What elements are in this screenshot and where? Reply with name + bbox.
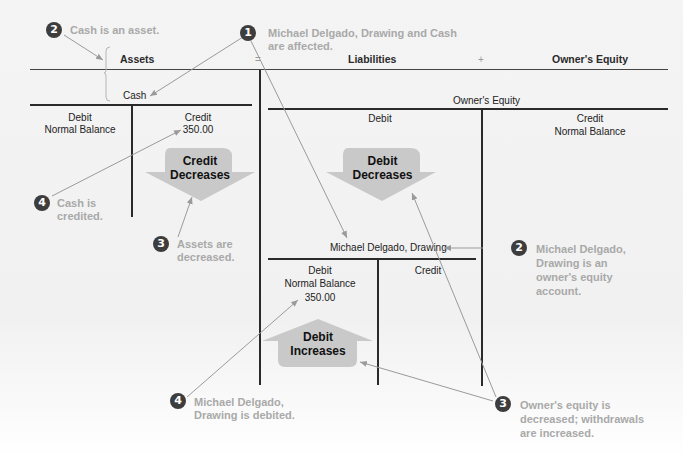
equation-equals: =: [255, 54, 261, 66]
equation-divider: [259, 70, 261, 385]
owners-equity-debit-header: Debit: [330, 113, 430, 125]
debit-decreases-line1: Debit: [345, 154, 420, 168]
owners-equity-credit-normal-balance: Normal Balance: [530, 126, 650, 138]
equation-assets: Assets: [120, 53, 154, 65]
cash-debit-header: Debit: [30, 112, 130, 124]
equation-liabilities: Liabilities: [348, 53, 396, 65]
drawing-debit-value: 350.00: [270, 292, 370, 304]
cash-credit-value: 350.00: [148, 124, 248, 136]
callout-3a-badge: 3: [153, 236, 169, 252]
owners-equity-divider: [481, 108, 483, 386]
equation-underline: [30, 69, 668, 70]
callout-4b-badge: 4: [170, 393, 186, 409]
cash-account-divider: [131, 104, 133, 217]
equation-owners-equity: Owner's Equity: [552, 53, 628, 65]
callout-3a-text: Assets are decreased.: [177, 238, 234, 264]
credit-decreases-line1: Credit: [165, 154, 235, 168]
owners-equity-credit-header: Credit: [530, 113, 650, 125]
callout-2a-badge: 2: [46, 22, 62, 38]
callout-4b-text: Michael Delgado, Drawing is debited.: [194, 396, 295, 422]
callout-2a-text: Cash is an asset.: [70, 24, 159, 37]
owners-equity-top-rule: [268, 108, 668, 110]
cash-credit-header: Credit: [148, 112, 248, 124]
owners-equity-account-title: Owner's Equity: [453, 95, 520, 107]
callout-4a-text: Cash is credited.: [57, 197, 103, 223]
drawing-debit-header: Debit: [270, 265, 370, 277]
debit-increases-line1: Debit: [280, 330, 356, 344]
callout-2b-badge: 2: [511, 240, 527, 256]
callout-2b-text: Michael Delgado, Drawing is an owner's e…: [536, 242, 626, 298]
equation-plus: +: [478, 54, 484, 66]
debit-increases-line2: Increases: [280, 344, 356, 358]
cash-debit-normal-balance: Normal Balance: [30, 124, 130, 136]
drawing-divider: [377, 258, 379, 385]
callout-3b-text: Owner's equity is decreased; withdrawals…: [520, 398, 644, 440]
cash-account-top-rule: [30, 104, 252, 106]
credit-decreases-line2: Decreases: [165, 168, 235, 182]
debit-decreases-line2: Decreases: [345, 168, 420, 182]
drawing-account-title: Michael Delgado, Drawing: [330, 242, 447, 254]
drawing-top-rule: [268, 258, 476, 260]
callout-3b-badge: 3: [495, 396, 511, 412]
callout-4a-badge: 4: [34, 195, 50, 211]
drawing-credit-header: Credit: [378, 265, 478, 277]
callout-1-text: Michael Delgado, Drawing and Cash are af…: [268, 27, 457, 53]
cash-account-title: Cash: [123, 90, 146, 102]
drawing-debit-normal-balance: Normal Balance: [270, 278, 370, 290]
callout-1-badge: 1: [240, 25, 256, 41]
